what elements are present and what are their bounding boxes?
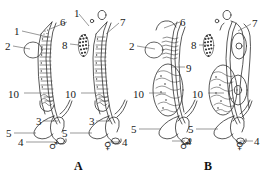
panel-label-B: B xyxy=(204,160,212,172)
callout-label-5: 5 xyxy=(6,128,12,139)
callout-label-8: 8 xyxy=(62,40,68,51)
callout-label-4: 4 xyxy=(122,137,128,148)
callout-label-1: 1 xyxy=(74,8,80,19)
callout-label-5: 5 xyxy=(131,124,137,135)
callout-label-10: 10 xyxy=(65,89,76,100)
callout-label-2: 2 xyxy=(5,41,11,52)
leader-line-8 xyxy=(70,44,79,45)
sex-symbol-female-panel-B: ♀ xyxy=(236,141,243,151)
callout-label-10: 10 xyxy=(133,89,144,100)
callout-label-4: 4 xyxy=(18,137,24,148)
sex-symbol-male-panel-B: ♂ xyxy=(180,141,189,151)
callout-label-7: 7 xyxy=(120,17,126,28)
callout-label-10: 10 xyxy=(192,89,203,100)
leader-line-7 xyxy=(106,23,119,34)
callout-label-3: 3 xyxy=(36,116,42,127)
leader-line-1 xyxy=(79,14,89,26)
callout-label-5: 5 xyxy=(62,128,68,139)
callout-label-1: 1 xyxy=(14,26,20,37)
callout-label-3: 3 xyxy=(89,116,95,127)
callout-label-2: 2 xyxy=(129,41,135,52)
callout-label-7: 7 xyxy=(252,18,258,29)
callout-label-4: 4 xyxy=(254,136,260,147)
callout-label-6: 6 xyxy=(180,17,186,28)
sex-symbol-male-panel-A: ♂ xyxy=(49,141,58,151)
leader-line-6 xyxy=(164,22,180,28)
figure-canvas: 12618710103543542687910105454 A♂♀B♂♀ xyxy=(0,0,272,179)
callout-label-10: 10 xyxy=(8,89,19,100)
specimen-a-female xyxy=(78,10,127,144)
callout-label-6: 6 xyxy=(60,17,66,28)
callout-label-8: 8 xyxy=(191,40,197,51)
specimen-b-female xyxy=(203,10,252,144)
callout-label-5: 5 xyxy=(188,124,194,135)
leader-line-2 xyxy=(13,46,30,49)
panel-label-A: A xyxy=(74,160,83,172)
callout-label-9: 9 xyxy=(186,63,192,74)
sex-symbol-female-panel-A: ♀ xyxy=(104,141,111,151)
